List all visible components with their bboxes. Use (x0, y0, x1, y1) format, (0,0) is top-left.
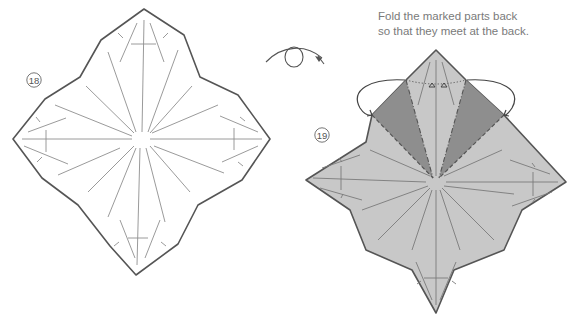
step-19-number-badge: 19 (315, 128, 329, 142)
step-18-paper-outline (13, 9, 270, 275)
step-18-figure: 18 (13, 9, 270, 275)
step-19-number: 19 (317, 130, 328, 141)
turn-over-arrow-icon (266, 47, 324, 67)
instruction-line-2: so that they meet at the back. (378, 24, 576, 39)
step-18-number: 18 (29, 75, 40, 86)
instruction-line-1: Fold the marked parts back (378, 9, 576, 24)
step-18-number-badge: 18 (27, 73, 41, 87)
diagram-canvas: 18 (0, 0, 576, 323)
step-19-instruction: Fold the marked parts back so that they … (378, 9, 576, 39)
step-19-figure: 19 (306, 50, 566, 313)
origami-diagram: 18 (0, 0, 576, 323)
